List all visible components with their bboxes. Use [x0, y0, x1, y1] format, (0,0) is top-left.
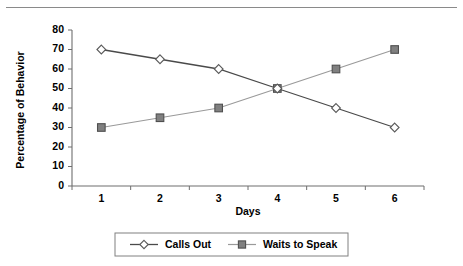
data-point-square [156, 114, 164, 122]
x-tick-label: 2 [157, 192, 163, 204]
y-tick-label: 70 [52, 42, 64, 54]
data-point-square [332, 65, 340, 73]
data-point-square [98, 124, 106, 132]
data-point-square [215, 104, 223, 112]
data-point-diamond [97, 45, 106, 54]
y-tick-label: 10 [52, 159, 64, 171]
y-tick-label: 60 [52, 62, 64, 74]
y-tick-label: 0 [58, 179, 64, 191]
legend-label-calls-out: Calls Out [165, 238, 212, 250]
series-waits-to-speak [98, 46, 399, 132]
y-tick-label: 80 [52, 23, 64, 35]
x-tick-label: 3 [216, 192, 222, 204]
y-axis-title: Percentage of Behavior [14, 51, 26, 168]
data-point-diamond [390, 123, 399, 132]
x-tick-label: 5 [333, 192, 339, 204]
data-point-diamond [156, 55, 165, 64]
y-tick-label: 50 [52, 81, 64, 93]
y-axis-ticks: 01020304050607080 [52, 23, 72, 191]
square-marker-icon [238, 241, 245, 248]
x-tick-label: 6 [392, 192, 398, 204]
data-point-square [391, 46, 399, 54]
line-chart-figure: Percentage of Behavior 01020304050607080… [0, 0, 463, 266]
x-tick-label: 1 [98, 192, 104, 204]
chart-legend: Calls Out Waits to Speak [115, 233, 348, 256]
series-polyline [101, 50, 394, 128]
data-point-diamond [214, 65, 223, 74]
series-calls-out [97, 45, 399, 132]
x-axis-ticks: 123456 [72, 186, 424, 204]
legend-label-waits-to-speak: Waits to Speak [263, 238, 337, 250]
data-point-diamond [332, 104, 341, 113]
y-axis-title-label: Percentage of Behavior [14, 51, 26, 168]
series-polyline [101, 50, 394, 128]
x-axis-title-label: Days [235, 205, 260, 217]
y-tick-label: 40 [52, 101, 64, 113]
y-tick-label: 30 [52, 120, 64, 132]
y-tick-label: 20 [52, 140, 64, 152]
x-tick-label: 4 [274, 192, 280, 204]
